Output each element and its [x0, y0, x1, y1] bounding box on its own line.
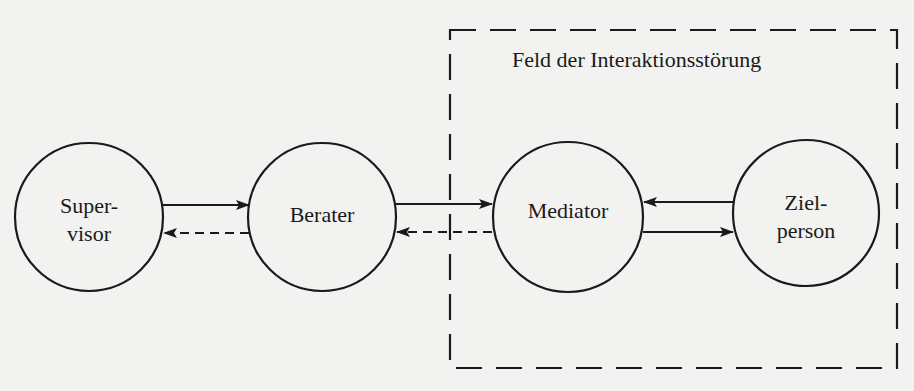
field-label: Feld der Interaktionsstörung: [512, 47, 761, 72]
zielperson-label-line1: Ziel-: [785, 190, 828, 215]
mediator-label: Mediator: [528, 198, 609, 223]
interaction-diagram: Feld der Interaktionsstörung Super- viso…: [0, 0, 914, 391]
supervisor-label-line2: visor: [67, 221, 112, 246]
field-border: [450, 30, 897, 368]
interaction-disturbance-field: Feld der Interaktionsstörung: [450, 30, 897, 368]
berater-label: Berater: [290, 202, 355, 227]
zielperson-label-line2: person: [777, 218, 836, 243]
node-mediator: Mediator: [493, 142, 643, 292]
node-berater: Berater: [248, 143, 396, 291]
node-zielperson: Ziel- person: [733, 140, 879, 286]
node-supervisor: Super- visor: [15, 143, 163, 291]
supervisor-label-line1: Super-: [60, 193, 118, 218]
